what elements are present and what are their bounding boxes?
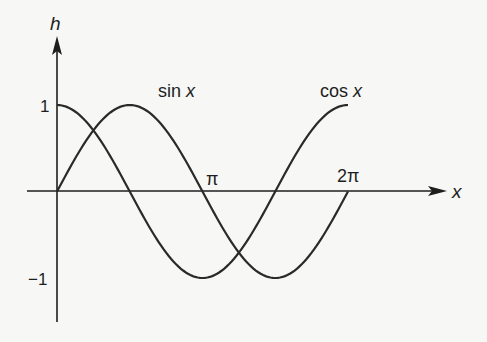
x-axis-label: x [451,181,463,202]
x-tick-2pi: 2π [337,166,359,186]
y-tick-minus-1: −1 [28,270,47,289]
sine-cosine-chart: h x 1 −1 π 2π sin x cos x [0,0,487,342]
y-axis: h [50,13,62,322]
cos-label: cos x [320,81,363,101]
sin-label-fn: sin [158,81,186,101]
y-tick-1: 1 [40,97,49,116]
sin-label: sin x [158,81,196,101]
cos-label-var: x [352,81,363,101]
x-tick-pi: π [206,169,218,189]
cos-label-fn: cos [320,81,353,101]
x-axis: x [27,181,463,202]
sin-label-var: x [185,81,196,101]
y-axis-label: h [50,13,61,34]
